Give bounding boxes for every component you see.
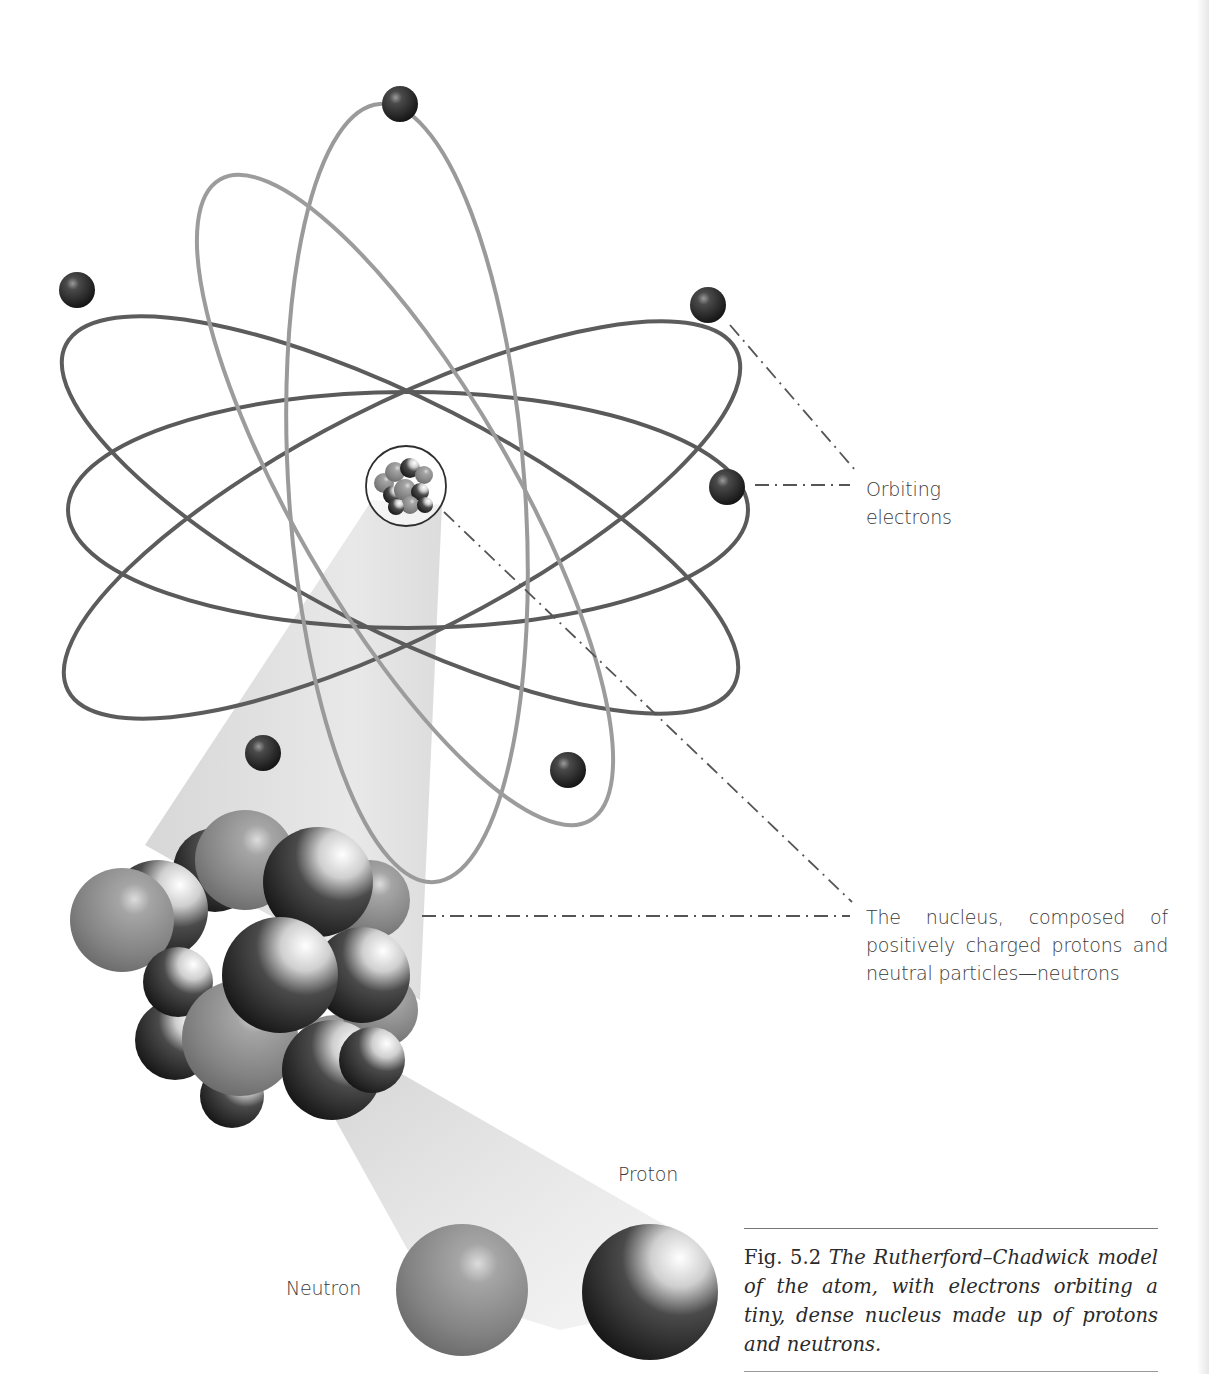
leader-nucleus-small	[444, 512, 852, 902]
label-nucleus: The nucleus, composed of positively char…	[866, 903, 1168, 987]
caption-text: Fig. 5.2 The Rutherford–Chadwick model o…	[744, 1243, 1158, 1359]
electron	[709, 469, 745, 505]
figure-number: Fig. 5.2	[744, 1246, 821, 1269]
electron	[550, 752, 586, 788]
neutron-sphere	[396, 1224, 528, 1356]
leader-electron-top	[730, 325, 855, 470]
figure-caption: Fig. 5.2 The Rutherford–Chadwick model o…	[744, 1228, 1158, 1372]
electron	[690, 287, 726, 323]
atom-diagram: Orbiting electrons The nucleus, composed…	[0, 0, 1209, 1374]
nucleus-small	[366, 446, 446, 526]
electron	[382, 86, 418, 122]
label-orbiting-electrons: Orbiting electrons	[866, 475, 1016, 531]
page-edge-shadow	[1197, 0, 1209, 1374]
electron	[245, 735, 281, 771]
label-proton: Proton	[618, 1160, 678, 1188]
label-line: electrons	[866, 503, 1016, 531]
electron	[59, 272, 95, 308]
label-line: Orbiting	[866, 475, 1016, 503]
nucleus-large	[70, 810, 418, 1128]
label-neutron: Neutron	[286, 1274, 361, 1302]
proton-sphere	[582, 1224, 718, 1360]
